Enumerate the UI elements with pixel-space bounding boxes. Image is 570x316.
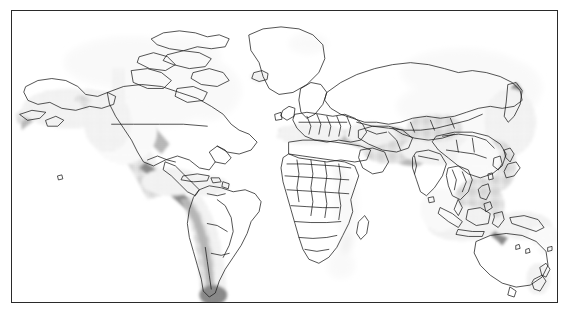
world-map-svg: [12, 11, 557, 302]
map-frame: [11, 10, 558, 303]
figure-root: World map showing global distribution of…: [0, 0, 570, 316]
